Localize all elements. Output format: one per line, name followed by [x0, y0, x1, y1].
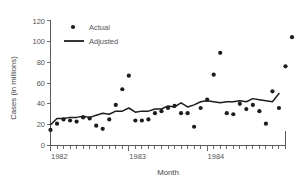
data-point — [179, 111, 183, 115]
chart-figure: Cases (in millions) 120 100 80 60 40 20 … — [0, 0, 297, 186]
y-tick-label: 100 — [32, 37, 45, 46]
data-point — [88, 116, 92, 120]
data-point — [257, 109, 261, 113]
data-point — [127, 74, 131, 78]
data-point — [277, 106, 281, 110]
data-point — [166, 106, 170, 110]
x-axis-title: Month — [157, 168, 179, 177]
chart-background — [0, 0, 297, 186]
data-point — [114, 103, 118, 107]
data-point — [146, 117, 150, 121]
data-point — [238, 102, 242, 106]
data-point — [264, 122, 268, 126]
y-tick-label: 0 — [41, 141, 45, 150]
data-point — [225, 111, 229, 115]
data-point — [48, 128, 52, 132]
data-point — [270, 89, 274, 93]
data-point — [81, 115, 85, 119]
data-point — [94, 124, 98, 128]
data-point — [68, 118, 72, 122]
data-point — [199, 106, 203, 110]
legend-label-actual: Actual — [89, 23, 110, 32]
data-point — [133, 118, 137, 122]
data-point — [159, 109, 163, 113]
legend-dot-icon — [71, 25, 75, 29]
x-tick-label: 1983 — [129, 152, 146, 161]
x-tick-label: 1982 — [51, 152, 68, 161]
data-point — [55, 122, 59, 126]
legend-label-adjusted: Adjusted — [89, 37, 118, 46]
y-tick-label: 20 — [37, 120, 45, 129]
data-point — [61, 117, 65, 121]
data-point — [231, 112, 235, 116]
data-point — [192, 125, 196, 129]
data-point — [218, 51, 222, 55]
data-point — [172, 104, 176, 108]
data-point — [185, 111, 189, 115]
y-tick-label: 40 — [37, 99, 45, 108]
y-tick-label: 60 — [37, 79, 45, 88]
data-point — [283, 64, 287, 68]
y-tick-label: 120 — [32, 17, 45, 26]
y-tick-label: 80 — [37, 58, 45, 67]
data-point — [251, 103, 255, 107]
data-point — [120, 87, 124, 91]
cases-scatter-line-chart: Cases (in millions) 120 100 80 60 40 20 … — [0, 0, 297, 186]
data-point — [140, 118, 144, 122]
data-point — [244, 107, 248, 111]
data-point — [153, 111, 157, 115]
data-point — [75, 119, 79, 123]
data-point — [205, 98, 209, 102]
data-point — [290, 35, 294, 39]
x-tick-label: 1984 — [208, 152, 225, 161]
data-point — [107, 117, 111, 121]
data-point — [101, 127, 105, 131]
y-axis-title: Cases (in millions) — [9, 56, 18, 120]
data-point — [212, 73, 216, 77]
